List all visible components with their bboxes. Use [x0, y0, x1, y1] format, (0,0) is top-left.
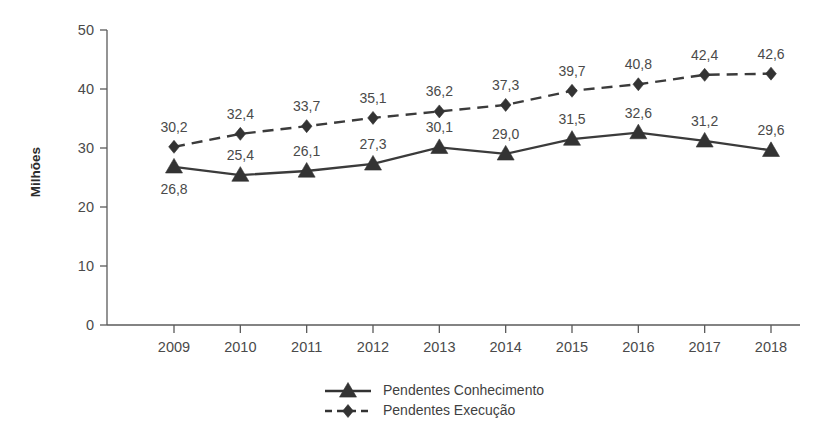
y-axis-tick-label: 30 [78, 140, 94, 156]
data-point-marker-triangle [166, 158, 183, 173]
x-axis-tick-label: 2012 [357, 339, 389, 355]
data-point-marker-diamond [301, 120, 312, 133]
data-point-marker-triangle [431, 139, 448, 154]
data-series-group [166, 67, 780, 181]
data-point-marker-triangle [630, 124, 647, 139]
data-point-label: 42,6 [757, 46, 784, 62]
chart-container: 01020304050 2009201020112012201320142015… [0, 0, 836, 446]
y-axis-tick-label: 20 [78, 199, 94, 215]
y-axis-title-text: Milhões [28, 147, 43, 197]
x-axis-tick-label: 2016 [622, 339, 654, 355]
data-point-label: 27,3 [359, 136, 386, 152]
data-point-label: 29,0 [492, 126, 519, 142]
line-chart: 01020304050 2009201020112012201320142015… [0, 0, 836, 446]
data-point-marker-diamond [633, 78, 644, 91]
data-point-label: 29,6 [757, 122, 784, 138]
y-axis-title: Milhões [28, 147, 43, 197]
data-point-label: 31,5 [558, 111, 585, 127]
data-point-marker-diamond [368, 111, 379, 124]
data-point-marker-diamond [766, 67, 777, 80]
data-point-label: 26,1 [293, 143, 320, 159]
x-axis-tick-label: 2010 [224, 339, 256, 355]
series-line-1 [174, 133, 771, 175]
x-axis-tick-label: 2015 [556, 339, 588, 355]
legend-item-label: Pendentes Conhecimento [383, 382, 544, 398]
data-point-marker-diamond [567, 84, 578, 97]
data-point-label: 32,6 [625, 105, 652, 121]
y-axis-tick-label: 10 [78, 258, 94, 274]
y-axis-tick-label: 40 [78, 81, 94, 97]
data-point-label: 31,2 [691, 113, 718, 129]
legend-item-label: Pendentes Execução [383, 402, 516, 418]
x-axis-tick-label: 2017 [689, 339, 721, 355]
data-point-label: 30,1 [426, 119, 453, 135]
y-axis-tick-label: 0 [86, 317, 94, 333]
y-axis: 01020304050 [78, 22, 107, 333]
data-point-marker-diamond [500, 98, 511, 111]
data-point-label: 32,4 [227, 106, 254, 122]
data-point-label: 40,8 [625, 56, 652, 72]
x-axis-tick-label: 2009 [158, 339, 190, 355]
data-point-marker-diamond [169, 140, 180, 153]
data-point-label: 35,1 [359, 90, 386, 106]
data-point-marker-diamond [343, 405, 354, 418]
data-point-label: 37,3 [492, 77, 519, 93]
y-axis-tick-label: 50 [78, 22, 94, 38]
data-point-label: 42,4 [691, 47, 718, 63]
x-axis-tick-label: 2013 [423, 339, 455, 355]
chart-legend: Pendentes ConhecimentoPendentes Execução [325, 382, 544, 418]
series-line-2 [174, 74, 771, 147]
x-axis-tick-label: 2014 [490, 339, 522, 355]
x-axis-tick-label: 2018 [755, 339, 787, 355]
data-point-label: 33,7 [293, 98, 320, 114]
x-axis: 2009201020112012201320142015201620172018 [107, 325, 800, 355]
data-point-label: 39,7 [558, 63, 585, 79]
data-point-marker-diamond [434, 105, 445, 118]
data-point-label: 25,4 [227, 147, 254, 163]
x-axis-tick-label: 2011 [291, 339, 322, 355]
data-point-label: 36,2 [426, 83, 453, 99]
data-point-label: 26,8 [160, 181, 187, 197]
data-point-label: 30,2 [160, 119, 187, 135]
data-point-marker-diamond [235, 127, 246, 140]
data-point-marker-diamond [699, 68, 710, 81]
